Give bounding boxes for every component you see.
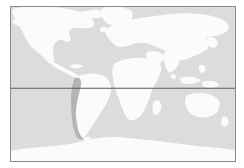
world-map-screenshot bbox=[0, 0, 244, 168]
world-map-svg[interactable] bbox=[11, 7, 235, 161]
map-frame[interactable] bbox=[10, 6, 236, 162]
